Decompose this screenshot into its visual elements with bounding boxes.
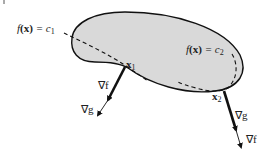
label-grad-g-1: ∇g: [80, 103, 94, 115]
grad-g-arrow-1: [98, 100, 108, 115]
grad-f-arrow-1: [108, 67, 125, 100]
label-point-x2: x2: [212, 90, 222, 104]
label-grad-f-1: ∇f: [97, 79, 109, 91]
grad-f-arrow-2: [236, 130, 241, 147]
lagrange-diagram: f(x) = c1 f(x) = c2 x1 x2 ∇f ∇g ∇g ∇f: [0, 0, 270, 156]
label-grad-g-2: ∇g: [234, 109, 248, 121]
label-level-c2: f(x) = c2: [186, 43, 224, 57]
label-grad-f-2: ∇f: [245, 133, 257, 145]
label-level-c1: f(x) = c1: [17, 22, 55, 36]
